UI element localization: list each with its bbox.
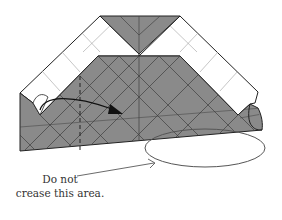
annotation-caption: Do not crease this area. [8,172,112,200]
annotation-line-1: Do not [8,172,112,186]
annotation-line-2: crease this area. [8,186,112,200]
